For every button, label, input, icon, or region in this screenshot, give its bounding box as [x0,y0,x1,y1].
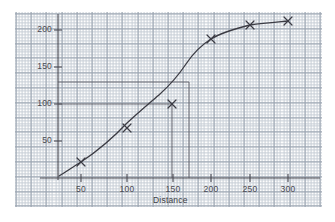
x-tick-label-100: 100 [113,185,141,194]
x-axis-title: Distance [153,196,188,205]
x-tick-label-250: 250 [236,185,264,194]
graph-paper-background [15,12,322,207]
x-tick-label-50: 50 [67,185,95,194]
y-tick-label-50: 50 [30,136,52,145]
y-tick-label-150: 150 [30,62,52,71]
chart-figure: 200 150 100 50 50 100 150 200 250 300 Di… [0,0,335,222]
y-tick-label-100: 100 [30,99,52,108]
x-tick-label-300: 300 [274,185,302,194]
y-tick-label-200: 200 [30,25,52,34]
x-tick-label-150: 150 [159,185,187,194]
x-tick-label-200: 200 [197,185,225,194]
